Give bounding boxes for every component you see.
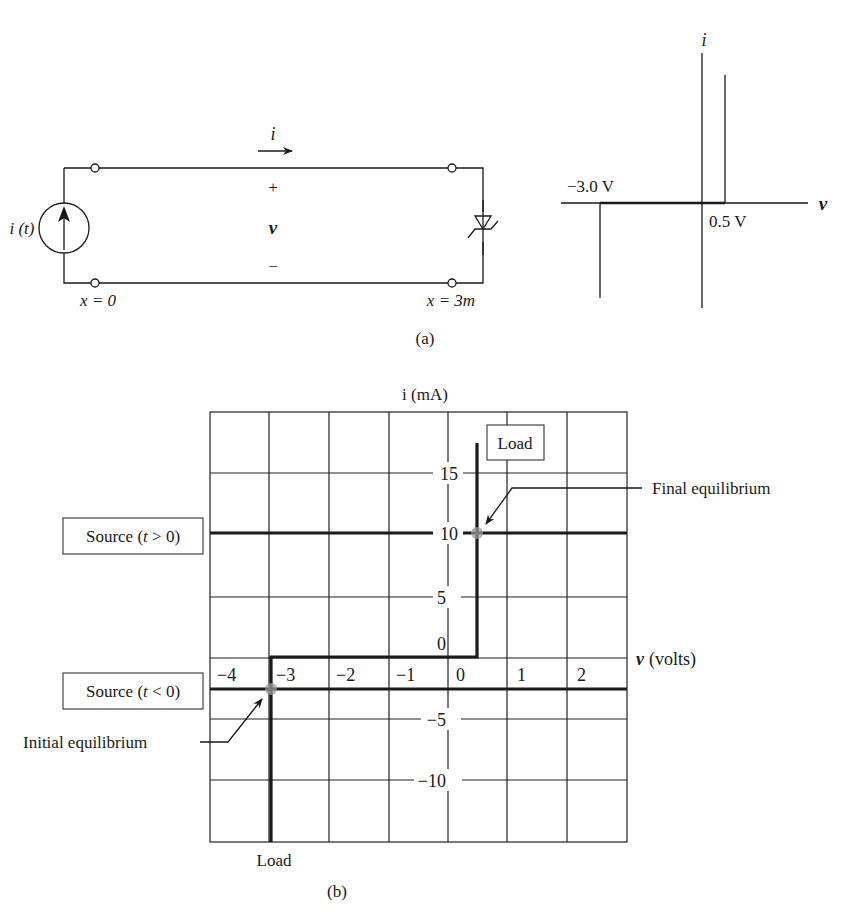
source-after-label: Source (t > 0) [86, 527, 180, 546]
load-label-top: Load [498, 434, 533, 453]
x-tick: 1 [517, 665, 526, 685]
initial-equilibrium-point [265, 683, 277, 695]
x-axis-title: v(volts) [636, 649, 696, 670]
source-before-label: Source (t < 0) [86, 682, 180, 701]
y-tick: 0 [437, 634, 446, 654]
x-tick: −1 [396, 665, 415, 685]
minus-sign: − [268, 257, 278, 276]
terminal-icon [91, 164, 99, 172]
caption-a: (a) [416, 329, 435, 348]
final-equilibrium-leader-arrow-icon [486, 488, 642, 524]
x-tick: 2 [577, 665, 586, 685]
y-tick-labels: 15 10 5 0 −5 −10 [414, 462, 475, 791]
x-tick: −4 [217, 665, 236, 685]
x-tick: −3 [276, 665, 295, 685]
final-equilibrium-point [471, 527, 483, 539]
terminal-icon [448, 164, 456, 172]
x-tick: 0 [456, 665, 465, 685]
terminal-icon [448, 279, 456, 287]
final-equilibrium-label: Final equilibrium [652, 479, 771, 498]
right-position-label: x = 3m [426, 291, 475, 310]
y-tick: 5 [437, 588, 446, 608]
iv-v-label: v [819, 193, 828, 214]
terminal-icon [91, 279, 99, 287]
y-tick: 15 [440, 464, 458, 484]
figure: i (t) i + v − x = 0 x = 3m i v −3.0 V 0.… [0, 0, 850, 921]
y-tick: −5 [427, 710, 446, 730]
circuit-diagram: i (t) i + v − x = 0 x = 3m [9, 124, 498, 310]
y-tick: 10 [440, 524, 458, 544]
iv-i-label: i [701, 30, 706, 50]
x-tick: −2 [336, 665, 355, 685]
load-label-bottom: Load [257, 851, 292, 870]
plus-sign: + [268, 178, 278, 197]
voltage-label: v [269, 217, 278, 238]
initial-equilibrium-leader-arrow-icon [200, 699, 262, 742]
initial-equilibrium-label: Initial equilibrium [23, 733, 147, 752]
source-label: i (t) [9, 219, 34, 238]
caption-b: (b) [327, 882, 347, 901]
iv-characteristic-plot: i v −3.0 V 0.5 V [561, 30, 828, 308]
load-line-chart: i (mA) [23, 385, 771, 870]
current-source-icon [39, 203, 89, 253]
zener-diode-icon [468, 200, 498, 255]
breakdown-voltage-label: −3.0 V [567, 177, 615, 196]
y-tick: −10 [418, 771, 446, 791]
left-position-label: x = 0 [79, 291, 117, 310]
y-axis-title: i (mA) [402, 385, 448, 404]
forward-voltage-label: 0.5 V [709, 212, 747, 231]
current-label: i [270, 124, 275, 144]
